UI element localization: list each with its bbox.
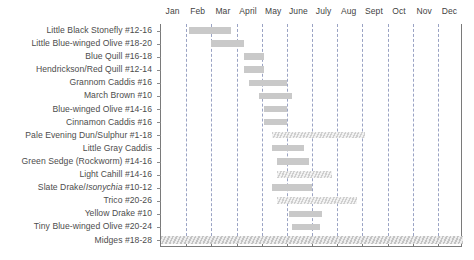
row-tick <box>157 44 161 45</box>
row-label: Light Cahill #14-16 <box>0 168 157 181</box>
month-label-aug: Aug <box>336 6 361 16</box>
row-label: Blue-winged Olive #14-16 <box>0 103 157 116</box>
month-label-jan: Jan <box>160 6 185 16</box>
bar-row <box>161 76 461 89</box>
bar-row <box>161 181 461 194</box>
row-tick <box>157 148 161 149</box>
hatch-bar <box>189 27 232 33</box>
month-axis-header: JanFebMarAprilMayJuneJulyAugSeptOctNovDe… <box>160 6 462 22</box>
hatch-bar <box>259 93 292 99</box>
row-label: Blue Quill #16-18 <box>0 50 157 63</box>
month-label-nov: Nov <box>412 6 437 16</box>
row-label: Little Black Stonefly #12-16 <box>0 24 157 37</box>
row-label: Tiny Blue-winged Olive #20-24 <box>0 220 157 233</box>
row-tick <box>157 122 161 123</box>
bar-row <box>161 116 461 129</box>
bar-row <box>161 142 461 155</box>
bar-row <box>161 63 461 76</box>
bar-row <box>161 221 461 234</box>
species-label-column: Little Black Stonefly #12-16Little Blue-… <box>0 24 157 247</box>
row-tick <box>157 96 161 97</box>
hatch-bar <box>264 119 287 125</box>
hatch-bar <box>289 211 322 217</box>
row-tick <box>157 70 161 71</box>
hatch-bar <box>244 66 264 72</box>
bar-row <box>161 155 461 168</box>
month-label-april: April <box>236 6 261 16</box>
row-label: Yellow Drake #10 <box>0 207 157 220</box>
bar-row <box>161 24 461 37</box>
row-label: Midges #18-28 <box>0 234 157 247</box>
row-tick <box>157 188 161 189</box>
month-label-mar: Mar <box>210 6 235 16</box>
row-label: Grannom Caddis #16 <box>0 76 157 89</box>
hatch-bar <box>277 197 358 203</box>
row-tick <box>157 227 161 228</box>
row-tick <box>157 57 161 58</box>
hatch-bar <box>249 80 287 86</box>
hatch-bar <box>272 132 365 138</box>
hatch-bar <box>211 40 244 46</box>
hatch-bar <box>272 145 305 151</box>
month-label-july: July <box>311 6 336 16</box>
month-label-june: June <box>286 6 311 16</box>
chart-plot-area <box>160 24 462 247</box>
bar-row <box>161 37 461 50</box>
month-label-oct: Oct <box>387 6 412 16</box>
row-tick <box>157 214 161 215</box>
month-label-sept: Sept <box>361 6 386 16</box>
row-tick <box>157 109 161 110</box>
bar-row <box>161 168 461 181</box>
row-tick <box>157 201 161 202</box>
row-tick <box>157 175 161 176</box>
hatch-bar <box>161 236 463 244</box>
row-tick <box>157 162 161 163</box>
bar-row <box>161 50 461 63</box>
row-label: Green Sedge (Rockworm) #14-16 <box>0 155 157 168</box>
row-label: Slate Drake/Isonychia #10-12 <box>0 181 157 194</box>
bar-row <box>161 207 461 220</box>
row-tick <box>157 31 161 32</box>
month-label-dec: Dec <box>437 6 462 16</box>
row-label: March Brown #10 <box>0 89 157 102</box>
hatch-bar <box>292 224 320 230</box>
month-label-may: May <box>261 6 286 16</box>
bar-row <box>161 103 461 116</box>
month-label-feb: Feb <box>185 6 210 16</box>
hatch-chart: JanFebMarAprilMayJuneJulyAugSeptOctNovDe… <box>0 0 474 260</box>
bar-row <box>161 234 461 247</box>
hatch-bar <box>264 106 287 112</box>
bar-row <box>161 194 461 207</box>
bar-row <box>161 129 461 142</box>
row-label: Little Blue-winged Olive #18-20 <box>0 37 157 50</box>
row-tick <box>157 83 161 84</box>
hatch-bar <box>244 53 264 59</box>
hatch-bar <box>272 184 312 190</box>
row-label: Cinnamon Caddis #16 <box>0 116 157 129</box>
row-label: Hendrickson/Red Quill #12-14 <box>0 63 157 76</box>
row-tick <box>157 135 161 136</box>
row-label: Pale Evening Dun/Sulphur #1-18 <box>0 129 157 142</box>
bar-row <box>161 90 461 103</box>
hatch-bar <box>277 158 310 164</box>
hatch-bar <box>277 171 332 177</box>
row-label: Little Gray Caddis <box>0 142 157 155</box>
row-label: Trico #20-26 <box>0 194 157 207</box>
